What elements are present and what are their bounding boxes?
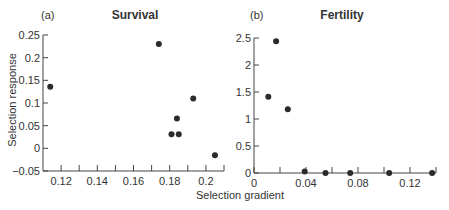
chart-title: Survival [112,8,159,22]
axes [43,35,224,171]
chart-title: Fertility [320,8,364,22]
data-point [265,94,271,100]
x-axis-label: Selection gradient [196,189,284,201]
data-point [212,152,218,158]
y-tick-label: 0.05 [19,120,40,132]
panel-label: (b) [250,9,263,21]
y-tick-label: 0.2 [25,52,40,64]
data-point [429,170,435,176]
y-tick-label: 1 [245,113,251,125]
x-tick-label: 0.08 [347,177,368,189]
x-tick-label: 0.04 [295,177,316,189]
y-tick-label: 1.5 [236,86,251,98]
x-tick-label: 0.16 [123,175,144,187]
y-tick-label: 0.5 [236,140,251,152]
data-point [176,131,182,137]
data-point [156,41,162,47]
data-point [323,170,329,176]
data-point [174,115,180,121]
y-tick-label: 0.15 [19,74,40,86]
x-tick-label: 0.12 [50,175,71,187]
data-point [285,106,291,112]
data-point [302,168,308,174]
x-tick-label: 0 [251,177,257,189]
y-tick-label: −0.05 [12,165,40,177]
y-tick-label: 2 [245,59,251,71]
survival-chart: (a)Survival−0.0500.050.10.150.20.250.120… [12,8,224,187]
y-tick-label: 2.5 [236,32,251,44]
data-point [347,170,353,176]
figure: (a)Survival−0.0500.050.10.150.20.250.120… [0,0,449,210]
y-axis-label: Selection response [6,53,18,147]
data-point [190,95,196,101]
panel-label: (a) [41,9,54,21]
y-tick-label: 0.1 [25,97,40,109]
data-point [386,170,392,176]
x-tick-label: 0.18 [159,175,180,187]
axes [254,38,436,173]
data-point [47,84,53,90]
x-tick-label: 0.12 [399,177,420,189]
y-tick-label: 0 [34,142,40,154]
x-tick-label: 0.2 [198,175,213,187]
x-tick-label: 0.14 [87,175,108,187]
fertility-chart: (b)Fertility00.511.522.500.040.080.12 [236,8,436,189]
y-tick-label: 0.25 [19,29,40,41]
data-point [169,131,175,137]
data-point [273,38,279,44]
